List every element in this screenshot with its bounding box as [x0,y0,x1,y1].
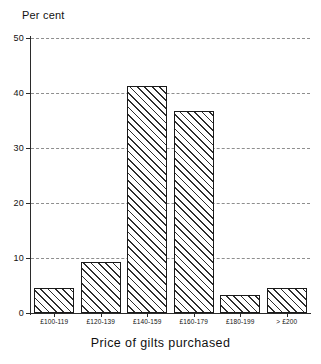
y-axis-tick-label: 50 [0,33,24,43]
bar [220,295,260,313]
x-axis-tick-mark [101,313,102,317]
gridline [31,258,310,259]
bar [174,111,214,313]
x-axis-tick-mark [194,313,195,317]
plot-area [31,38,310,313]
x-axis-category-label: £100-119 [31,318,78,325]
x-axis-category-label: £140-159 [124,318,171,325]
x-axis-title: Price of gilts purchased [0,336,321,350]
histogram-chart: Per cent 01020304050 £100-119£120-139£14… [0,0,321,364]
gridline [31,203,310,204]
y-axis-tick-mark [26,313,31,314]
gridline [31,38,310,39]
x-axis-category-label: £160-179 [171,318,218,325]
x-axis-tick-mark [240,313,241,317]
gridline [31,148,310,149]
x-axis-category-label: £120-139 [78,318,125,325]
bar [267,288,307,313]
gridline [31,93,310,94]
y-axis-tick-label: 20 [0,198,24,208]
y-axis-tick-label: 10 [0,253,24,263]
x-axis-category-label: £180-199 [217,318,264,325]
x-axis-category-label: > £200 [264,318,311,325]
bar [34,288,74,313]
x-axis-line [30,313,311,314]
x-axis-tick-mark [54,313,55,317]
x-axis-tick-mark [147,313,148,317]
y-axis-tick-label: 30 [0,143,24,153]
y-axis-tick-label: 0 [0,308,24,318]
y-axis-tick-label: 40 [0,88,24,98]
bar [81,262,121,313]
bar [127,86,167,313]
y-axis-caption: Per cent [22,9,65,21]
x-axis-tick-mark [287,313,288,317]
